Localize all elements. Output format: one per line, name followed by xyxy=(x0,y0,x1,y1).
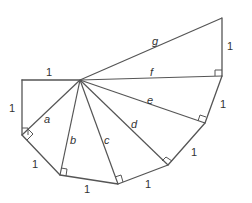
label-top-left: 1 xyxy=(46,66,52,78)
hypotenuse-b xyxy=(60,80,80,175)
hypotenuses xyxy=(22,18,222,184)
label-right-middle: 1 xyxy=(220,98,226,110)
label-f: f xyxy=(150,66,154,78)
hypotenuse-c xyxy=(80,80,118,184)
hypotenuse-a xyxy=(22,80,80,135)
label-bottom-right: 1 xyxy=(145,178,151,190)
label-lower-left: 1 xyxy=(32,158,38,170)
hypotenuse-d xyxy=(80,80,168,165)
label-bottom: 1 xyxy=(84,183,90,195)
right-angle-icon xyxy=(215,70,222,76)
label-g: g xyxy=(152,35,159,47)
edge-right-lower xyxy=(168,123,205,165)
label-right-top: 1 xyxy=(227,40,233,52)
label-a: a xyxy=(44,113,50,125)
edge-lower-left xyxy=(22,135,60,175)
label-c: c xyxy=(104,134,110,146)
label-d: d xyxy=(131,118,138,130)
right-angle-markers xyxy=(22,70,222,182)
spiral-of-theodorus-diagram: 1 1 1 1 1 1 1 1 a b c d e f g xyxy=(0,0,252,203)
label-left: 1 xyxy=(9,102,15,114)
edge-bottom-right xyxy=(118,165,168,184)
right-angle-icon xyxy=(198,115,206,121)
hypotenuse-labels: a b c d e f g xyxy=(44,35,159,146)
label-right-lower: 1 xyxy=(191,146,197,158)
hypotenuse-e xyxy=(80,80,205,123)
outer-edges xyxy=(22,18,222,184)
label-e: e xyxy=(147,94,153,106)
label-b: b xyxy=(70,134,76,146)
